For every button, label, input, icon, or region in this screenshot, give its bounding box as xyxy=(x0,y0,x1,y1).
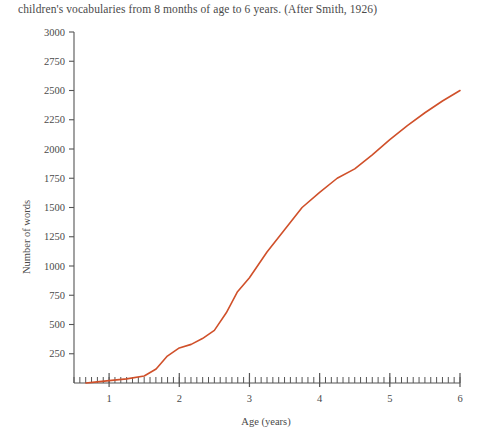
y-tick-label: 250 xyxy=(49,348,65,359)
y-tick-label: 500 xyxy=(49,319,65,330)
x-tick-label: 1 xyxy=(106,393,111,404)
x-tick-label: 5 xyxy=(387,393,392,404)
x-tick-label: 3 xyxy=(247,393,252,404)
y-tick-label: 2750 xyxy=(44,56,65,67)
y-tick-label: 2000 xyxy=(44,144,65,155)
y-axis-ticks xyxy=(69,32,74,354)
x-tick-label: 4 xyxy=(317,393,323,404)
x-tick-label: 6 xyxy=(457,393,462,404)
y-tick-label: 2500 xyxy=(44,85,65,96)
y-tick-label: 1500 xyxy=(44,202,65,213)
y-axis-tick-labels: 2505007501000125015001750200022502500275… xyxy=(44,27,65,360)
y-tick-label: 750 xyxy=(49,290,65,301)
y-axis-title: Number of words xyxy=(21,200,32,274)
y-tick-label: 2250 xyxy=(44,114,65,125)
x-tick-label: 2 xyxy=(177,393,182,404)
x-axis-group: 123456 Age (years) xyxy=(74,373,463,428)
y-axis-group: 2505007501000125015001750200022502500275… xyxy=(21,27,74,384)
x-axis-title: Age (years) xyxy=(241,416,291,428)
y-tick-label: 1000 xyxy=(44,261,65,272)
vocabulary-curve xyxy=(86,91,460,384)
x-axis-tick-labels: 123456 xyxy=(106,393,462,404)
y-tick-label: 1750 xyxy=(44,173,65,184)
y-tick-label: 1250 xyxy=(44,231,65,242)
vocabulary-growth-chart: 2505007501000125015001750200022502500275… xyxy=(0,0,481,444)
y-tick-label: 3000 xyxy=(44,27,65,38)
